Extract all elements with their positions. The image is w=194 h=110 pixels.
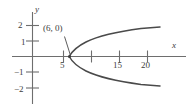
x-axis-label: x [172,41,176,50]
x-tick-label-15: 15 [113,61,122,70]
vertex-leader-line [65,37,71,56]
parabola-upper-branch [69,27,160,56]
graph-canvas [0,0,194,110]
x-tick-label-20: 20 [141,61,150,70]
vertex-point-marker [68,55,71,58]
x-tick-label-5: 5 [60,61,65,70]
parabola-graph-figure: y x 2 1 −1 −2 5 15 20 (6, 0) [0,0,194,110]
y-tick-label-2: 2 [18,21,23,30]
y-tick-label-minus-1: −1 [14,68,24,77]
y-axis-label: y [35,5,39,14]
y-tick-label-minus-2: −2 [14,85,24,94]
y-tick-label-1: 1 [21,38,26,47]
vertex-annotation-label: (6, 0) [43,24,63,33]
